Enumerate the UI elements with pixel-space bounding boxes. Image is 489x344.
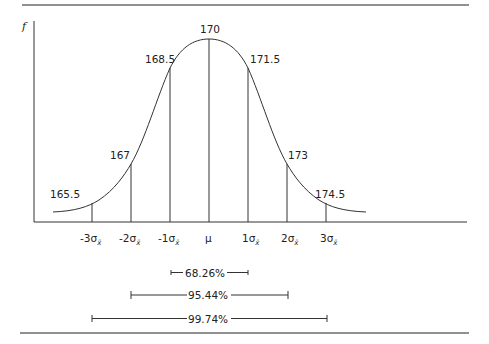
svg-text:μ: μ	[205, 232, 212, 244]
x-tick-minus2: -2σx̄	[119, 232, 141, 247]
value-label-174-5: 174.5	[315, 188, 345, 200]
svg-text:2σx̄: 2σx̄	[281, 232, 299, 247]
interval-3-sigma-label: 99.74%	[188, 313, 228, 325]
value-label-171-5: 171.5	[250, 53, 280, 65]
svg-text:3σx̄: 3σx̄	[320, 232, 338, 247]
x-tick-plus3: 3σx̄	[320, 232, 338, 247]
svg-text:-1σx̄: -1σx̄	[158, 232, 180, 247]
x-tick-plus2: 2σx̄	[281, 232, 299, 247]
value-label-170: 170	[200, 23, 220, 35]
svg-text:-2σx̄: -2σx̄	[119, 232, 141, 247]
x-tick-minus3: -3σx̄	[80, 232, 102, 247]
x-tick-plus1: 1σx̄	[242, 232, 260, 247]
svg-text:1σx̄: 1σx̄	[242, 232, 260, 247]
y-axis-label: f	[21, 20, 28, 33]
x-tick-mean: μ	[205, 232, 212, 244]
normal-distribution-diagram: f 165.5 167 168.5 170 171.5 173 174.5 -3…	[0, 0, 489, 344]
interval-1-sigma-label: 68.26%	[185, 267, 225, 279]
interval-2-sigma-label: 95.44%	[188, 289, 228, 301]
value-label-167: 167	[110, 149, 130, 161]
value-label-173: 173	[288, 149, 308, 161]
x-tick-minus1: -1σx̄	[158, 232, 180, 247]
value-label-168-5: 168.5	[145, 53, 175, 65]
value-label-165-5: 165.5	[50, 188, 80, 200]
svg-text:-3σx̄: -3σx̄	[80, 232, 102, 247]
